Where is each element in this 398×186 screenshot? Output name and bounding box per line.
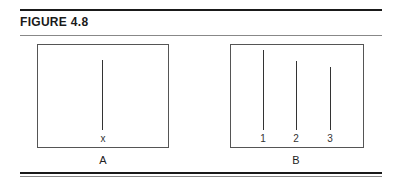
- bottom-rule-thin: [20, 176, 382, 177]
- bottom-rule-thick: [20, 172, 382, 174]
- panel-a-caption: A: [99, 154, 106, 166]
- panel-b-line-3: [330, 67, 331, 130]
- panel-a-line-x: [102, 60, 103, 130]
- panel-b-line-2-label: 2: [293, 133, 299, 144]
- panel-b-line-1: [263, 50, 264, 130]
- panel-b-line-2: [296, 61, 297, 130]
- panel-a-line-x-label: x: [101, 133, 106, 144]
- panel-b-line-1-label: 1: [260, 133, 266, 144]
- panel-b-caption: B: [292, 154, 299, 166]
- top-rule: [20, 9, 382, 11]
- panel-b-line-3-label: 3: [327, 133, 333, 144]
- figure-title: FIGURE 4.8: [20, 15, 88, 29]
- title-underline: [20, 35, 382, 36]
